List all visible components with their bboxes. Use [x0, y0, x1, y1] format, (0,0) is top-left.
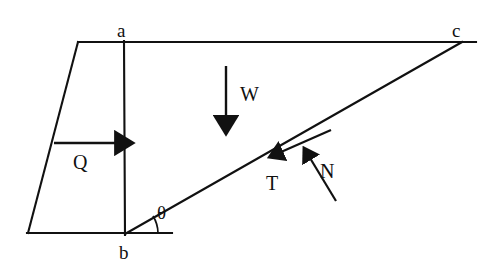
force-label-w: W: [240, 84, 259, 104]
vertex-label-c: c: [452, 21, 460, 40]
vertex-label-b: b: [119, 243, 129, 262]
failure-plane-bc-line: [125, 42, 462, 234]
vertex-label-a: a: [117, 21, 125, 40]
free-body-diagram: a b c θ W Q T N: [0, 0, 496, 280]
left-edge-line: [28, 42, 78, 233]
force-label-t: T: [266, 173, 278, 193]
angle-label-theta: θ: [157, 203, 166, 222]
force-label-n: N: [320, 161, 334, 181]
vertical-edge-ab-line: [124, 41, 125, 235]
wedge-outline: [27, 41, 476, 235]
diagram-canvas: [0, 0, 496, 280]
force-label-q: Q: [73, 152, 87, 172]
